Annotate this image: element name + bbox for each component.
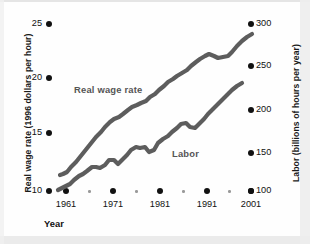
plot-area: Real wage rate (1996 dollars per hour) L… xyxy=(0,0,310,244)
figure-canvas: Real wage rate (1996 dollars per hour) L… xyxy=(0,0,310,244)
chart-curves xyxy=(0,0,310,244)
series-label-labor: Labor xyxy=(172,148,199,159)
series-label-real-wage-rate: Real wage rate xyxy=(74,84,142,95)
real-wage-rate-curve xyxy=(60,34,252,175)
